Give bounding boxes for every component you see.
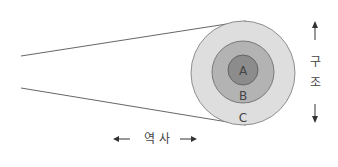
vertical-label-char-1: 구 <box>310 55 321 69</box>
horizontal-axis-history: 역 사 <box>113 132 197 146</box>
left-arrowhead-icon <box>113 136 119 142</box>
up-arrowhead-icon <box>312 21 318 28</box>
horizontal-label: 역 사 <box>144 132 170 146</box>
history-structure-diagram: A B C 구 조 역 사 <box>0 0 338 167</box>
right-arrowhead-icon <box>191 136 197 142</box>
down-arrowhead-icon <box>312 116 318 123</box>
vertical-label-char-2: 조 <box>310 76 321 90</box>
label-a: A <box>239 64 248 78</box>
label-c: C <box>239 111 247 125</box>
vertical-axis-structure: 구 조 <box>310 21 321 123</box>
label-b: B <box>239 89 247 103</box>
